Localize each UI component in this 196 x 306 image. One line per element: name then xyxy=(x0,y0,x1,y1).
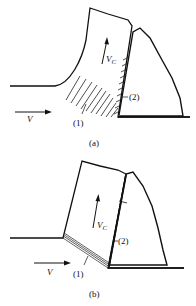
figure-a: VC V (1) (2) (a) xyxy=(10,8,190,148)
chip-velocity-label-b: VC xyxy=(97,220,108,232)
zone-2-label-b: (2) xyxy=(118,236,129,246)
secondary-shear-zone-b xyxy=(109,175,126,266)
figure-a-caption: (a) xyxy=(89,138,99,148)
zone-1-label-b: (1) xyxy=(73,269,84,279)
tool-a xyxy=(119,28,183,116)
figure-b-caption: (b) xyxy=(89,289,100,299)
cutting-velocity-label-b: V xyxy=(47,267,54,277)
zone-1-label-a: (1) xyxy=(73,118,84,128)
cutting-diagram: VC V (1) (2) (a) VC V xyxy=(0,0,196,306)
chip-outline-b xyxy=(10,161,184,268)
cutting-velocity-label-a: V xyxy=(27,114,34,124)
chip-velocity-label-a: VC xyxy=(106,54,117,66)
zone-2-label-a: (2) xyxy=(129,92,140,102)
figure-b: VC V (1) (2) (b) xyxy=(10,161,184,299)
primary-shear-zone-a xyxy=(66,76,118,117)
